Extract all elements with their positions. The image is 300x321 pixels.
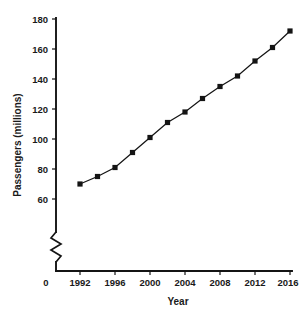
data-point-marker: 2008: 135 xyxy=(217,84,222,89)
data-point-marker: 1996: 81 xyxy=(112,165,117,170)
data-point-marker: 2000: 101 xyxy=(147,135,152,140)
data-point-marker: 2006: 127 xyxy=(200,96,205,101)
data-point-marker: 2010: 142 xyxy=(235,73,240,78)
x-axis-title: Year xyxy=(167,296,188,307)
y-axis-break-icon xyxy=(51,232,61,262)
y-tick-label-160: 160 xyxy=(32,44,48,55)
data-series-passengers: 1992: 701994: 751996: 811998: 912000: 10… xyxy=(77,28,292,186)
data-point-marker: 2012: 152 xyxy=(252,58,257,63)
x-tick-label-2008: 2008 xyxy=(209,277,230,288)
x-tick-label-1996: 1996 xyxy=(104,277,125,288)
y-axis-title: Passengers (millions) xyxy=(12,93,23,196)
y-tick-label-80: 80 xyxy=(37,164,48,175)
data-point-marker: 2014: 161 xyxy=(270,45,275,50)
y-tick-label-100: 100 xyxy=(32,134,48,145)
data-point-marker: 2004: 118 xyxy=(182,109,187,114)
data-point-marker: 1994: 75 xyxy=(95,174,100,179)
data-point-marker: 2016: 172 xyxy=(287,28,292,33)
y-tick-label-60: 60 xyxy=(37,194,48,205)
x-tick-label-2004: 2004 xyxy=(174,277,196,288)
y-tick-label-180: 180 xyxy=(32,14,48,25)
y-tick-label-140: 140 xyxy=(32,74,48,85)
chart-svg: 180 160 140 120 100 80 60 0 1992 1996 20… xyxy=(0,0,300,321)
x-tick-label-2016: 2016 xyxy=(277,277,298,288)
data-point-marker: 1992: 70 xyxy=(77,181,82,186)
origin-zero-label: 0 xyxy=(43,277,48,288)
y-tick-label-120: 120 xyxy=(32,104,48,115)
data-point-marker: 1998: 91 xyxy=(130,150,135,155)
x-tick-label-2012: 2012 xyxy=(244,277,265,288)
x-tick-label-2000: 2000 xyxy=(139,277,160,288)
x-tick-label-1992: 1992 xyxy=(69,277,90,288)
data-point-marker: 2002: 111 xyxy=(165,120,170,125)
passenger-line-chart: 180 160 140 120 100 80 60 0 1992 1996 20… xyxy=(0,0,300,321)
series-line-passengers xyxy=(80,31,290,184)
